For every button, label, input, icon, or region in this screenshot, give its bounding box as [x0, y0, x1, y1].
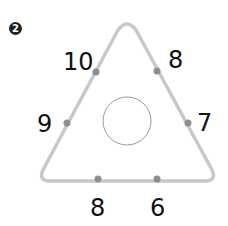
dot-right-lower [185, 120, 192, 127]
dot-bottom-left [95, 176, 102, 183]
number-bottom-right: 6 [150, 196, 165, 220]
number-left-lower: 9 [37, 112, 52, 136]
number-right-lower: 7 [197, 111, 212, 135]
triangle-diagram [0, 0, 228, 226]
dot-left-lower [64, 120, 71, 127]
center-answer-circle [103, 97, 151, 145]
dot-left-upper [93, 69, 100, 76]
number-bottom-left: 8 [90, 196, 105, 220]
number-left-upper: 10 [63, 50, 94, 74]
number-right-upper: 8 [168, 48, 183, 72]
dot-bottom-right [154, 176, 161, 183]
dot-right-upper [154, 68, 161, 75]
